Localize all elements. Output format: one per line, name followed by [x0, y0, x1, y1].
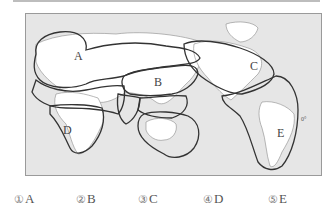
region-label-b: B [154, 75, 162, 89]
region-label-c: C [250, 59, 258, 73]
option-3[interactable]: ③C [138, 191, 158, 207]
region-label-a: A [74, 49, 83, 63]
option-number: ① [14, 193, 24, 205]
region-label-d: D [63, 123, 72, 137]
option-label: A [25, 191, 34, 206]
option-4[interactable]: ④D [203, 191, 223, 207]
option-number: ④ [203, 193, 213, 205]
option-label: D [214, 191, 223, 206]
map-svg: A B C D E 0° [26, 14, 323, 177]
option-label: E [279, 191, 287, 206]
top-divider [13, 0, 320, 2]
answer-options: ①A ②B ③C ④D ⑤E [0, 191, 334, 211]
australia-landmass [146, 118, 176, 140]
option-number: ③ [138, 193, 148, 205]
option-label: B [87, 191, 96, 206]
option-1[interactable]: ①A [14, 191, 34, 207]
equator-label: 0° [301, 116, 307, 122]
option-label: C [149, 191, 158, 206]
region-label-e: E [277, 126, 284, 140]
option-2[interactable]: ②B [76, 191, 96, 207]
option-5[interactable]: ⑤E [268, 191, 287, 207]
world-map: A B C D E 0° [25, 13, 322, 176]
option-number: ② [76, 193, 86, 205]
option-number: ⑤ [268, 193, 278, 205]
greenland-landmass [226, 22, 258, 42]
